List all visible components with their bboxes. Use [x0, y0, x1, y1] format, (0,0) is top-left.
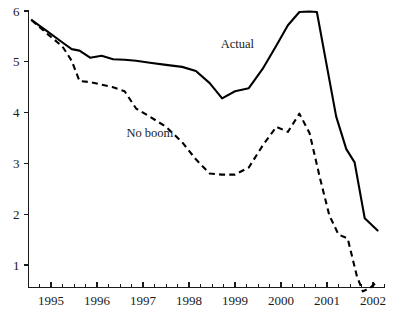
x-tick-label: 1995: [38, 293, 64, 308]
x-tick-label: 1998: [176, 293, 202, 308]
y-tick-label: 6: [13, 4, 20, 19]
x-tick-label: 2000: [268, 293, 294, 308]
y-tick-label: 3: [13, 156, 20, 171]
y-tick-label: 2: [13, 207, 20, 222]
x-tick-label: 2002: [360, 293, 386, 308]
y-tick-label: 4: [13, 105, 20, 120]
y-tick-label: 1: [13, 258, 20, 273]
chart-series-group: [32, 12, 378, 292]
x-axis-ticks: [40, 282, 385, 288]
line-chart-plot: 123456 19951996199719981999200020012002 …: [0, 0, 396, 319]
x-axis-tick-labels: 19951996199719981999200020012002: [38, 293, 386, 308]
y-axis-tick-labels: 123456: [13, 4, 20, 273]
annotation-actual: Actual: [221, 37, 255, 51]
y-tick-label: 5: [13, 54, 20, 69]
x-tick-label: 1997: [130, 293, 157, 308]
x-tick-label: 1999: [222, 293, 248, 308]
y-axis-ticks: [24, 11, 29, 265]
series-line-actual: [32, 12, 378, 231]
chart-series-annotations: ActualNo boom: [126, 37, 254, 140]
x-tick-label: 2001: [314, 293, 340, 308]
chart-container: 123456 19951996199719981999200020012002 …: [0, 0, 396, 319]
x-tick-label: 1996: [84, 293, 111, 308]
annotation-no-boom: No boom: [126, 126, 173, 140]
